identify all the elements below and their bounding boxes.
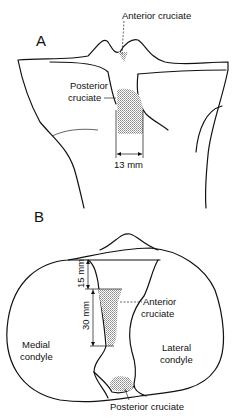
panel-a-letter: A xyxy=(36,32,46,49)
panel-b-medial-edge xyxy=(88,260,108,398)
panel-b-dim-15-label: 15 mm xyxy=(75,259,86,288)
panel-b-dim-30-label: 30 mm xyxy=(80,301,91,330)
panel-a-anterior-label: Anterior cruciate xyxy=(122,10,191,21)
panel-b-medial-label-1: Medial xyxy=(22,339,50,350)
knee-anatomy-diagram: A 13 mm Anterior cruciate Posterior cruc… xyxy=(0,0,238,420)
panel-a-contour-left xyxy=(52,129,98,136)
panel-b-lateral-edge xyxy=(130,260,158,396)
panel-a-posterior-cruciate-area xyxy=(117,89,143,134)
panel-a-posterior-label-1: Posterior xyxy=(70,80,108,91)
panel-a-posterior-label-2: cruciate xyxy=(68,92,101,103)
panel-a: A 13 mm Anterior cruciate Posterior cruc… xyxy=(18,10,228,208)
panel-b-posterior-cruciate-area xyxy=(110,376,133,391)
panel-b-lateral-label-2: condyle xyxy=(160,354,193,365)
panel-b-anterior-cruciate-area xyxy=(98,289,122,346)
panel-a-anterior-cruciate-area xyxy=(118,52,128,62)
panel-b-anterior-label-1: Anterior xyxy=(143,296,176,307)
panel-a-width-label: 13 mm xyxy=(114,159,143,170)
panel-b-medial-label-2: condyle xyxy=(20,351,53,362)
panel-a-notch-right-top xyxy=(138,70,226,74)
panel-b-letter: B xyxy=(34,208,44,225)
panel-b-lateral-label-1: Lateral xyxy=(162,342,191,353)
panel-b-anterior-label-2: cruciate xyxy=(141,308,174,319)
panel-b-posterior-label: Posterior cruciate xyxy=(110,401,184,412)
panel-a-anterior-leader xyxy=(122,21,124,54)
panel-b: B 15 mm 30 mm Anterior cruciate Medial c… xyxy=(7,208,224,412)
